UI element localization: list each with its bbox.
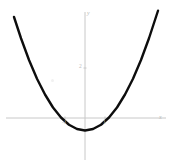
plot-canvas: [0, 0, 172, 168]
y-axis-label: y: [87, 10, 90, 16]
parabola-plot-figure: y x -1 1 2: [0, 0, 172, 168]
x-tick-label-1: 1: [103, 120, 106, 126]
x-axis-label: x: [159, 114, 162, 120]
parabola-curve: [14, 11, 158, 131]
faint-background-mark: [51, 79, 54, 82]
y-tick-label-2: 2: [79, 64, 82, 70]
x-tick-label-neg1: -1: [62, 120, 67, 126]
